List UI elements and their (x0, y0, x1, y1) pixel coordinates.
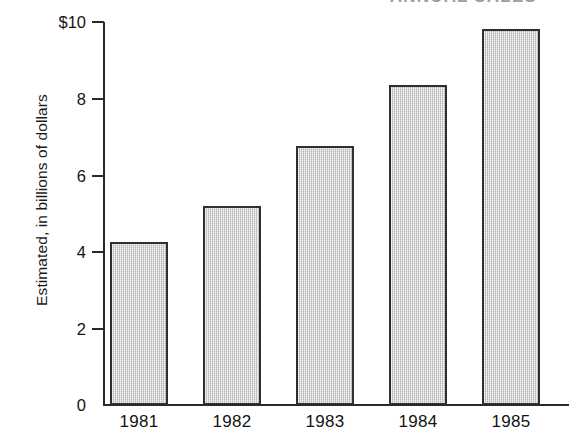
y-tick-4 (92, 251, 104, 253)
bar-chart: ANNUAL SALES Estimated, in billions of d… (0, 0, 583, 446)
y-tick-label-2: 2 (0, 320, 88, 339)
bar-1982 (203, 206, 261, 405)
y-tick-10 (92, 21, 104, 23)
y-tick-6 (92, 175, 104, 177)
x-label-1984: 1984 (389, 412, 447, 432)
x-label-1985: 1985 (482, 412, 540, 432)
x-label-1982: 1982 (203, 412, 261, 432)
y-tick-label-4: 4 (0, 243, 88, 262)
y-tick-8 (92, 98, 104, 100)
y-axis-line (103, 22, 105, 406)
x-label-1981: 1981 (110, 412, 168, 432)
bar-1981 (110, 242, 168, 405)
y-tick-label-0: 0 (0, 396, 88, 415)
y-tick-label-10: $10 (0, 13, 88, 32)
y-tick-label-8: 8 (0, 90, 88, 109)
bar-1985 (482, 29, 540, 405)
y-tick-2 (92, 328, 104, 330)
bar-1983 (296, 146, 354, 405)
bar-1984 (389, 85, 447, 405)
plot-area: $10 8 6 4 2 0 1981 1982 1983 1984 1985 (0, 0, 583, 446)
y-tick-label-6: 6 (0, 167, 88, 186)
x-label-1983: 1983 (296, 412, 354, 432)
